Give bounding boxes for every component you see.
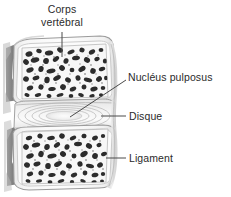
label-disque: Disque	[129, 110, 162, 123]
label-nucleus-pulposus: Nucléus pulposus	[128, 71, 212, 84]
label-corps-vertebral-line2: vertébral	[22, 16, 102, 29]
label-corps-vertebral-line1: Corps	[22, 3, 102, 16]
label-ligament: Ligament	[129, 152, 173, 165]
label-corps-vertebral: Corps vertébral	[22, 3, 102, 28]
vertebral-column-illustration	[0, 0, 231, 197]
upper-vertebral-body	[13, 36, 115, 105]
lower-vertebral-body	[13, 125, 115, 190]
anatomical-figure: Corps vertébral Nucléus pulposus Disque …	[0, 0, 231, 197]
nucleus-pulposus-region	[46, 111, 82, 120]
